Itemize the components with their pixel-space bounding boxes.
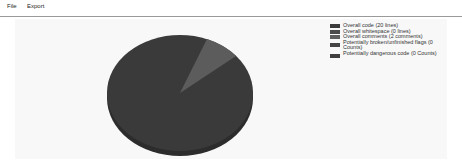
legend-swatch <box>330 35 340 39</box>
legend-swatch <box>330 30 340 34</box>
legend-swatch <box>330 43 340 47</box>
legend-swatch <box>330 24 340 28</box>
legend: Overall code (20 lines) Overall whitespa… <box>330 23 448 58</box>
menu-export[interactable]: Export <box>27 3 44 9</box>
chart-area: Overall code (20 lines) Overall whitespa… <box>15 19 447 159</box>
menu-bar: File Export <box>0 0 462 17</box>
legend-swatch <box>330 54 340 58</box>
menu-file[interactable]: File <box>7 3 17 9</box>
legend-item-dangerous-code: Potentially dangerous code (0 Counts) <box>330 51 448 58</box>
pie-chart <box>15 19 335 159</box>
